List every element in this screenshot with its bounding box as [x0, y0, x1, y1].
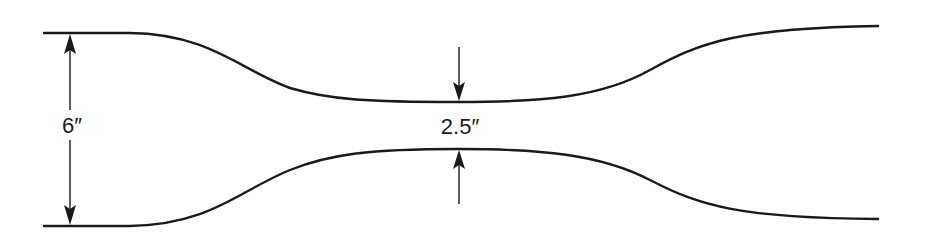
venturi-diagram: 6″ 2.5″: [0, 0, 925, 249]
inlet-dimension: 6″: [62, 34, 82, 225]
throat-diameter-label: 2.5″: [441, 114, 480, 139]
inlet-diameter-label: 6″: [62, 113, 82, 138]
throat-dimension: 2.5″: [441, 47, 480, 204]
